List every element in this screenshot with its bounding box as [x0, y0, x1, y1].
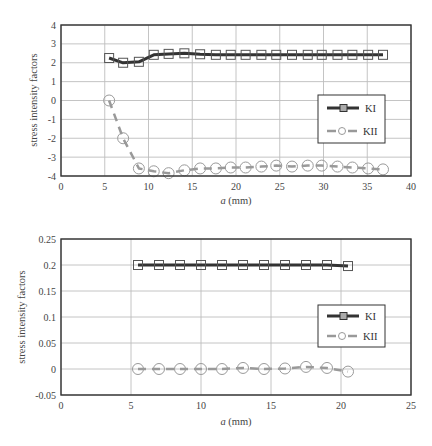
y-tick-label: 0.25: [39, 234, 57, 245]
bottom-chart: -0.0500.050.10.150.20.25 0510152025 stre…: [16, 234, 416, 429]
figure: -4-3-2-101234 0510152025303540 stress in…: [0, 0, 432, 446]
x-tick-label: 40: [406, 181, 416, 192]
legend-kii-circle-icon: [339, 128, 346, 135]
x-tick-label: 10: [196, 400, 206, 411]
top-chart-x-ticks: 0510152025303540: [59, 181, 417, 192]
legend-ki-label: KI: [365, 103, 377, 114]
y-tick-label: 0: [51, 95, 56, 106]
x-tick-label: 0: [59, 181, 64, 192]
x-tick-label: 35: [362, 181, 372, 192]
series-line-ki: [138, 265, 348, 266]
legend-ki-label: KI: [365, 311, 377, 322]
x-tick-label: 25: [406, 400, 416, 411]
x-tick-label: 0: [59, 400, 64, 411]
y-tick-label: -2: [48, 133, 56, 144]
x-tick-label: 20: [231, 181, 241, 192]
y-tick-label: 0.2: [44, 260, 57, 271]
y-tick-label: 3: [51, 38, 56, 49]
x-axis-unit: (mm): [226, 195, 252, 207]
top-chart-x-axis-title: a (mm): [220, 195, 252, 207]
x-tick-label: 20: [336, 400, 346, 411]
bottom-chart-legend: KI KII: [318, 305, 385, 347]
y-tick-label: -3: [48, 152, 56, 163]
y-tick-label: 4: [51, 20, 56, 31]
x-tick-label: 25: [275, 181, 285, 192]
x-tick-label: 5: [102, 181, 107, 192]
x-tick-label: 10: [144, 181, 154, 192]
legend-kii-label: KII: [363, 126, 378, 137]
y-tick-label: -0.05: [35, 390, 56, 401]
top-chart: -4-3-2-101234 0510152025303540 stress in…: [28, 20, 416, 208]
x-tick-label: 15: [266, 400, 276, 411]
x-tick-label: 5: [129, 400, 134, 411]
y-tick-label: 0: [51, 364, 56, 375]
legend-ki-square-icon: [340, 313, 347, 320]
legend-ki-square-icon: [340, 105, 347, 112]
top-chart-legend: KI KII: [318, 95, 385, 143]
bottom-chart-x-ticks: 0510152025: [59, 400, 417, 411]
bottom-chart-x-axis-title: a (mm): [220, 416, 252, 428]
legend-kii-label: KII: [363, 331, 378, 342]
top-chart-y-ticks: -4-3-2-101234: [48, 20, 56, 182]
y-tick-label: -4: [48, 171, 56, 182]
bottom-chart-y-ticks: -0.0500.050.10.150.20.25: [35, 234, 56, 401]
y-tick-label: -1: [48, 114, 56, 125]
y-tick-label: 0.05: [39, 338, 57, 349]
x-axis-unit: (mm): [226, 416, 252, 428]
y-tick-label: 1: [51, 76, 56, 87]
x-tick-label: 30: [319, 181, 329, 192]
y-tick-label: 2: [51, 57, 56, 68]
x-tick-label: 15: [187, 181, 197, 192]
top-chart-y-axis-title: stress intensity factors: [28, 53, 39, 146]
legend-kii-circle-icon: [339, 333, 346, 340]
y-tick-label: 0.15: [39, 286, 57, 297]
y-tick-label: 0.1: [44, 312, 57, 323]
bottom-chart-y-axis-title: stress intensity factors: [16, 270, 27, 363]
